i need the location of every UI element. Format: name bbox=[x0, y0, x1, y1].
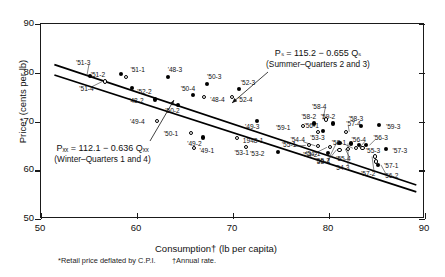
y-tick bbox=[35, 219, 41, 220]
data-point-label: '57-3 bbox=[393, 147, 407, 154]
x-tick bbox=[233, 213, 234, 219]
data-point bbox=[166, 75, 170, 79]
data-point-label: '56-1 bbox=[304, 122, 318, 129]
data-point-label: '48-4 bbox=[210, 96, 224, 103]
footnote-price: *Retail price deflated by C.P.I. bbox=[58, 256, 156, 265]
y-axis-title: Price* (cents per lb) bbox=[17, 32, 28, 172]
data-point bbox=[153, 97, 157, 101]
summer-equation-text: Pₛ = 115.2 − 0.655 Qₛ bbox=[248, 48, 388, 59]
data-point-label: '56-4 bbox=[352, 136, 366, 143]
data-point-label: '55-4 bbox=[336, 155, 350, 162]
y-tick-label: 70 bbox=[8, 116, 34, 126]
data-point-label: '58-2 bbox=[302, 113, 316, 120]
data-point-label: '54-1 bbox=[306, 150, 320, 157]
data-point-label: '49-3 bbox=[245, 123, 259, 130]
data-point-label: '51-3 bbox=[76, 59, 90, 66]
data-point-label: '53-4 bbox=[316, 158, 330, 165]
data-point-label: '54-3 bbox=[335, 164, 349, 171]
data-point-label: '56-2 bbox=[384, 172, 398, 179]
data-point-label: '59-2 bbox=[321, 113, 335, 120]
data-point-label: '58-4 bbox=[312, 103, 326, 110]
data-point-label: '50-1 bbox=[164, 130, 178, 137]
data-point-label: '52-2 bbox=[137, 88, 151, 95]
data-point bbox=[235, 136, 239, 140]
data-point-label: '53-3 bbox=[310, 134, 324, 141]
y-tick-right bbox=[419, 219, 425, 220]
data-point bbox=[119, 72, 123, 76]
y-tick bbox=[35, 170, 41, 171]
data-point-label: '57-1 bbox=[384, 162, 398, 169]
x-tick bbox=[137, 213, 138, 219]
data-point-label: '51-2 bbox=[91, 71, 105, 78]
x-axis-title: Consumption† (lb per capita) bbox=[155, 243, 277, 254]
data-point-label: '51-4 bbox=[79, 85, 93, 92]
data-point-label: '53-1 bbox=[234, 149, 248, 156]
data-point bbox=[191, 93, 195, 97]
x-tick bbox=[329, 213, 330, 219]
data-point-label: 1948-1 bbox=[243, 137, 264, 144]
y-tick-right bbox=[419, 24, 425, 25]
data-point-label: '52-3 bbox=[241, 79, 255, 86]
data-point-label: '49-4 bbox=[130, 118, 144, 125]
data-point-label: '58-1 bbox=[332, 139, 346, 146]
data-point-label: '56-3 bbox=[373, 134, 387, 141]
data-point-label: '50-4 bbox=[181, 85, 195, 92]
data-point-label: '53-2 bbox=[250, 150, 264, 157]
y-tick-label: 50 bbox=[8, 213, 34, 223]
data-point bbox=[324, 117, 328, 121]
x-tick bbox=[41, 213, 42, 219]
x-tick-label: 80 bbox=[313, 223, 343, 233]
y-tick bbox=[35, 24, 41, 25]
x-tick-label: 70 bbox=[217, 223, 247, 233]
data-point bbox=[201, 135, 205, 139]
data-point bbox=[373, 154, 377, 158]
data-point bbox=[331, 121, 335, 125]
data-point-label: '59-1 bbox=[276, 124, 290, 131]
y-tick bbox=[35, 73, 41, 74]
data-point-label: '52-4 bbox=[238, 96, 252, 103]
data-point bbox=[337, 148, 341, 152]
y-tick-label: 80 bbox=[8, 67, 34, 77]
data-point-label: '55-3 bbox=[366, 147, 380, 154]
data-point-label: '54-4 bbox=[290, 136, 304, 143]
x-tick-label: 60 bbox=[121, 223, 151, 233]
winter-equation-subtitle: (Winter–Quarters 1 and 4) bbox=[30, 154, 175, 165]
summer-equation-subtitle: (Summer–Quarters 2 and 3) bbox=[248, 59, 388, 70]
data-point bbox=[103, 79, 107, 83]
y-tick-right bbox=[419, 170, 425, 171]
data-point bbox=[384, 147, 388, 151]
y-tick-label: 90 bbox=[8, 18, 34, 28]
x-tick bbox=[425, 213, 426, 219]
winter-equation-annotation: Pₓₓ = 112.1 − 0.636 Qₓₓ (Winter–Quarters… bbox=[30, 143, 175, 165]
x-tick-label: 50 bbox=[25, 223, 55, 233]
data-point bbox=[360, 146, 364, 150]
footnote-annual: †Annual rate. bbox=[172, 256, 216, 265]
x-tick-label: 90 bbox=[409, 223, 439, 233]
data-point bbox=[374, 159, 378, 163]
chart-root: Price* (cents per lb) Consumption† (lb p… bbox=[0, 0, 445, 277]
data-point-label: '48-2 bbox=[129, 97, 143, 104]
data-point-label: '59-3 bbox=[386, 123, 400, 130]
data-point-label: '57-4 bbox=[346, 120, 360, 127]
y-tick-right bbox=[419, 122, 425, 123]
data-point-label: '57-2 bbox=[361, 170, 375, 177]
data-point-label: '49-1 bbox=[200, 147, 214, 154]
data-point-label: '50-2 bbox=[165, 107, 179, 114]
y-tick bbox=[35, 122, 41, 123]
data-point-label: '48-3 bbox=[168, 66, 182, 73]
data-point-label: '50-3 bbox=[207, 73, 221, 80]
data-point-label: '51-1 bbox=[130, 66, 144, 73]
y-tick-label: 60 bbox=[8, 164, 34, 174]
summer-equation-annotation: Pₛ = 115.2 − 0.655 Qₛ (Summer–Quarters 2… bbox=[248, 48, 388, 70]
y-tick-right bbox=[419, 73, 425, 74]
winter-equation-text: Pₓₓ = 112.1 − 0.636 Qₓₓ bbox=[30, 143, 175, 154]
